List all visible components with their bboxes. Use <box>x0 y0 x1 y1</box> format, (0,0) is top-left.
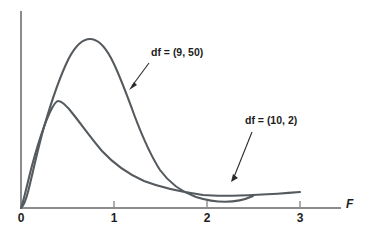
arrow-head-df-9-50 <box>129 82 137 90</box>
curve-df-9-50 <box>21 39 253 208</box>
x-tick-label-1: 1 <box>104 212 124 224</box>
annotation-leader-10-2 <box>231 132 252 182</box>
series-label-df-9-50: df = (9, 50) <box>151 47 203 58</box>
series-label-df-10-2: df = (10, 2) <box>245 115 297 126</box>
x-tick-label-3: 3 <box>290 212 310 224</box>
f-distribution-chart: 0 1 2 3 df = (9, 50) df = (10, 2) F <box>0 0 374 236</box>
leader-line-df-10-2 <box>234 132 252 177</box>
x-axis-title: F <box>346 198 353 210</box>
x-tick-label-2: 2 <box>197 212 217 224</box>
x-tick-label-0: 0 <box>11 212 31 224</box>
annotation-leader-9-50 <box>129 63 149 90</box>
chart-canvas <box>0 0 374 236</box>
